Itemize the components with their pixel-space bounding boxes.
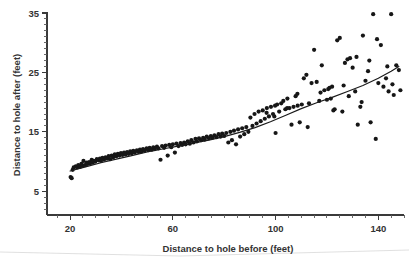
y-tick-label: 5: [34, 186, 40, 197]
data-point: [257, 110, 261, 114]
data-point: [269, 105, 273, 109]
x-tick-label: 60: [168, 223, 179, 234]
data-point: [296, 104, 300, 108]
data-point: [230, 138, 234, 142]
data-point: [312, 48, 316, 52]
data-point: [342, 83, 346, 87]
data-point: [386, 89, 390, 93]
data-point: [228, 130, 232, 134]
data-point: [354, 55, 358, 59]
axis-tick-labels: 20601001405152535: [28, 8, 386, 235]
data-point: [285, 106, 289, 110]
data-point: [166, 153, 170, 157]
data-point: [295, 92, 299, 96]
data-point: [381, 85, 385, 89]
data-point: [320, 63, 324, 67]
data-point: [390, 82, 394, 86]
data-point: [304, 73, 308, 77]
data-point: [361, 33, 365, 37]
data-point: [358, 105, 362, 109]
data-point: [173, 151, 177, 155]
data-point: [164, 143, 168, 147]
data-point: [389, 12, 393, 16]
y-tick-label: 25: [28, 67, 39, 78]
data-points: [69, 12, 403, 180]
data-point: [309, 81, 313, 85]
data-point: [397, 68, 401, 72]
scatter-plot: 20601001405152535 Distance to hole befor…: [0, 0, 409, 266]
data-point: [236, 127, 240, 131]
data-point: [250, 124, 254, 128]
data-point: [158, 158, 162, 162]
data-point: [242, 132, 246, 136]
data-point: [171, 142, 175, 146]
data-point: [375, 37, 379, 41]
data-point: [306, 125, 310, 129]
data-point: [289, 123, 293, 127]
x-tick-label: 20: [65, 223, 76, 234]
y-tick-label: 15: [28, 126, 39, 137]
data-point: [240, 126, 244, 130]
data-point: [398, 88, 402, 92]
data-point: [384, 76, 388, 80]
x-tick-label: 140: [370, 223, 386, 234]
data-point: [331, 108, 335, 112]
data-point: [385, 64, 389, 68]
data-point: [360, 100, 364, 104]
data-point: [351, 66, 355, 70]
data-point: [254, 121, 258, 125]
data-point: [366, 69, 370, 73]
data-point: [315, 80, 319, 84]
data-point: [322, 88, 326, 92]
data-point: [281, 99, 285, 103]
data-point: [267, 114, 271, 118]
data-point: [232, 129, 236, 133]
data-point: [363, 79, 367, 83]
data-point: [291, 105, 295, 109]
data-point: [226, 140, 230, 144]
y-axis-title: Distance to hole after (feet): [11, 54, 22, 176]
data-point: [263, 117, 267, 121]
data-point: [238, 134, 242, 138]
data-point: [343, 61, 347, 65]
data-point: [265, 106, 269, 110]
axis-ticks: [42, 13, 404, 220]
data-point: [379, 43, 383, 47]
data-point: [277, 110, 281, 114]
chart-figure: 20601001405152535 Distance to hole befor…: [0, 0, 409, 266]
data-point: [261, 108, 265, 112]
data-point: [302, 76, 306, 80]
data-point: [70, 176, 74, 180]
data-point: [244, 125, 248, 129]
data-point: [252, 112, 256, 116]
data-point: [298, 120, 302, 124]
data-point: [376, 81, 380, 85]
data-point: [374, 137, 378, 141]
data-point: [259, 119, 263, 123]
data-point: [273, 131, 277, 135]
axes: [47, 12, 404, 215]
data-point: [369, 120, 373, 124]
data-point: [338, 36, 342, 40]
data-point: [300, 102, 304, 106]
data-point: [272, 114, 276, 118]
data-point: [264, 111, 268, 115]
data-point: [275, 102, 279, 106]
data-point: [318, 91, 322, 95]
data-point: [340, 110, 344, 114]
data-point: [234, 142, 238, 146]
x-axis-title: Distance to hole before (feet): [163, 243, 294, 254]
data-point: [248, 115, 252, 119]
data-point: [285, 96, 289, 100]
data-point: [348, 56, 352, 60]
x-tick-label: 100: [268, 223, 284, 234]
data-point: [224, 131, 228, 135]
data-point: [330, 85, 334, 89]
data-point: [347, 94, 351, 98]
data-point: [353, 89, 357, 93]
data-point: [356, 123, 360, 127]
data-point: [392, 93, 396, 97]
y-tick-label: 35: [28, 8, 39, 19]
data-point: [371, 12, 375, 16]
data-point: [367, 58, 371, 62]
